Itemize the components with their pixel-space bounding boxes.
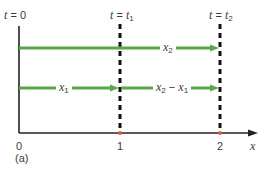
arrow-subscript-b: 1 [184, 86, 188, 95]
equals-sign: = [212, 9, 225, 21]
x2-arrowhead [210, 45, 219, 52]
x-axis-arrowhead [248, 130, 258, 137]
x2-minus-x1-arrowhead [210, 85, 219, 92]
arrow-subscript: 2 [168, 46, 172, 55]
axis-var: x [250, 139, 255, 153]
arrow-label-x2: x2 [160, 41, 176, 57]
equals-sign: = [113, 9, 126, 21]
time-label-t2: t = t2 [209, 9, 233, 25]
arrow-subscript: 1 [64, 86, 68, 95]
arrow-label-x2-minus-x1: x2 − x1 [153, 81, 191, 97]
tick-mark-2 [218, 131, 222, 135]
time-value: 0 [20, 9, 26, 21]
x1-arrowhead [110, 85, 119, 92]
time-label-t1: t = t1 [110, 9, 134, 25]
tick-mark-1 [118, 131, 122, 135]
tick-label-0: 0 [16, 140, 22, 152]
minus-sign: − [166, 81, 179, 93]
tick-label-2: 2 [217, 140, 223, 152]
time-subscript: 2 [228, 14, 232, 23]
x-axis-label: x [250, 140, 255, 152]
tick-label-1: 1 [117, 140, 123, 152]
equals-sign: = [7, 9, 20, 21]
motion-diagram [0, 0, 269, 170]
time-label-t0: t = 0 [4, 9, 26, 21]
arrow-label-x1: x1 [56, 81, 72, 97]
time-subscript: 1 [129, 14, 133, 23]
panel-label: (a) [15, 152, 28, 164]
